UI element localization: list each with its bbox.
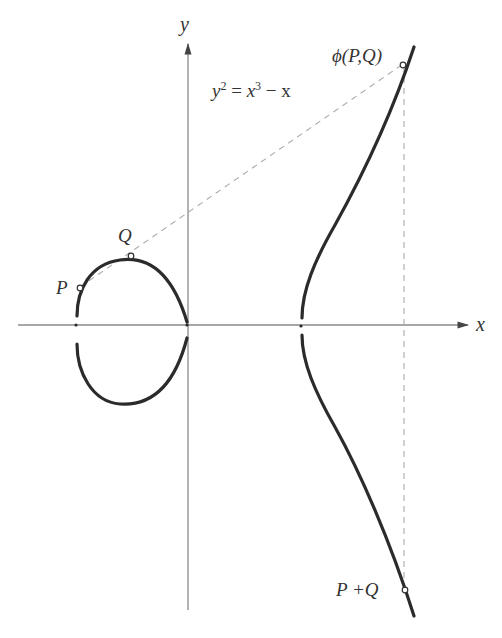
label-q: Q [118, 226, 132, 245]
curve-branch-upper [302, 47, 414, 318]
y-axis-label: y [180, 14, 189, 34]
curve-oval-upper [77, 259, 187, 322]
point-sum [402, 587, 408, 593]
label-p: P [56, 278, 68, 297]
x-axis-label: x [476, 314, 485, 334]
curve-equation: y2 = x3 − x [212, 80, 291, 100]
label-phi: ϕ(P,Q) [332, 46, 382, 65]
point-phi [400, 62, 406, 68]
label-sum: P +Q [336, 580, 379, 599]
curve-oval-lower [77, 338, 187, 404]
point-q [128, 253, 134, 259]
curve-branch-lower [302, 335, 414, 616]
point-p [77, 285, 83, 291]
